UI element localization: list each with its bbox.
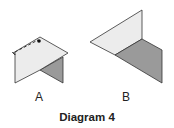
figure-a-dot — [37, 39, 41, 43]
figure-b-label: B — [122, 90, 130, 104]
diagram-canvas — [0, 0, 174, 128]
figure-a — [12, 37, 68, 83]
figure-b — [90, 10, 162, 83]
figure-a-label: A — [35, 90, 43, 104]
diagram-title: Diagram 4 — [59, 111, 115, 123]
